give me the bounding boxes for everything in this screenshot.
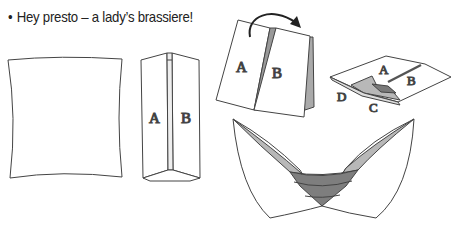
- step-flat-square: [8, 57, 122, 178]
- label-c: C: [369, 100, 378, 115]
- label-a: A: [149, 110, 160, 126]
- step-fold-over: A B: [216, 20, 314, 117]
- folding-diagram: A B A B A B D C: [0, 0, 462, 226]
- step-folded-panels: A B: [141, 53, 200, 181]
- step-brassiere: [233, 119, 414, 218]
- label-a: A: [379, 62, 389, 77]
- label-d: D: [337, 89, 346, 104]
- label-b: B: [272, 65, 282, 81]
- step-flattened: A B D C: [330, 56, 451, 115]
- label-b: B: [181, 110, 191, 126]
- label-a: A: [236, 59, 247, 75]
- label-b: B: [407, 73, 416, 88]
